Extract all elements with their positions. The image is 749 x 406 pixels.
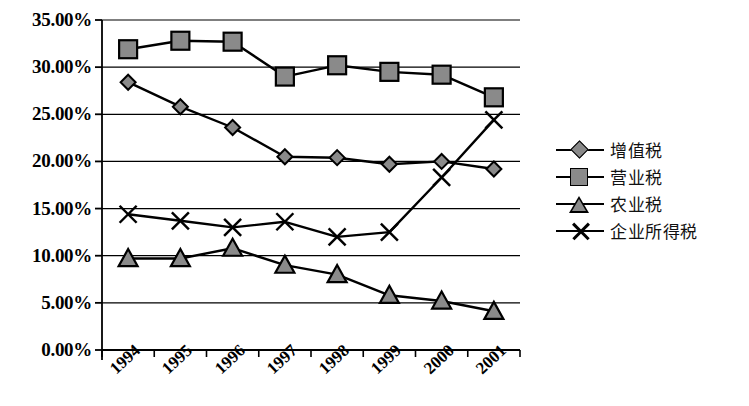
data-point-增值税-1994 xyxy=(121,75,136,90)
y-tick-label-15: 15.00% xyxy=(0,199,92,218)
data-point-营业税-1994 xyxy=(119,40,137,58)
legend-marker-diamond-icon xyxy=(556,139,604,161)
y-tick-label-25: 25.00% xyxy=(0,104,92,123)
chart-figure: 0.00%5.00%10.00%15.00%20.00%25.00%30.00%… xyxy=(0,0,749,406)
x-cross-icon xyxy=(571,222,589,240)
data-point-营业税-1995 xyxy=(171,32,189,50)
y-tick-label-20: 20.00% xyxy=(0,151,92,170)
y-tick-label-35: 35.00% xyxy=(0,10,92,29)
legend-label: 企业所得税 xyxy=(604,218,698,243)
square-icon xyxy=(570,168,588,186)
chart-legend: 增值税营业税农业税企业所得税 xyxy=(556,136,746,244)
data-point-企业所得税-2000 xyxy=(433,169,450,186)
data-point-营业税-1997 xyxy=(276,68,294,86)
legend-item-农业税[interactable]: 农业税 xyxy=(556,190,746,217)
legend-label: 农业税 xyxy=(604,191,663,216)
legend-label: 增值税 xyxy=(604,137,663,162)
data-point-营业税-1996 xyxy=(224,33,242,51)
diamond-icon xyxy=(570,140,588,158)
legend-item-企业所得税[interactable]: 企业所得税 xyxy=(556,217,746,244)
legend-marker-triangle-icon xyxy=(556,193,604,215)
y-tick-label-10: 10.00% xyxy=(0,246,92,265)
data-point-增值税-1995 xyxy=(173,99,188,114)
legend-item-营业税[interactable]: 营业税 xyxy=(556,163,746,190)
legend-marker-x-icon xyxy=(556,220,604,242)
data-point-增值税-1999 xyxy=(382,157,397,172)
y-tick-label-0: 0.00% xyxy=(0,340,92,359)
triangle-icon xyxy=(569,196,589,213)
data-point-营业税-2001 xyxy=(485,88,503,106)
y-tick-label-5: 5.00% xyxy=(0,293,92,312)
legend-marker-square-icon xyxy=(556,166,604,188)
legend-label: 营业税 xyxy=(604,164,663,189)
data-point-营业税-2000 xyxy=(433,66,451,84)
data-point-增值税-2000 xyxy=(434,154,449,169)
data-point-增值税-1996 xyxy=(225,120,240,135)
data-point-农业税-1999 xyxy=(380,286,399,303)
data-point-营业税-1998 xyxy=(328,56,346,74)
y-tick-label-30: 30.00% xyxy=(0,57,92,76)
legend-item-增值税[interactable]: 增值税 xyxy=(556,136,746,163)
data-point-增值税-2001 xyxy=(486,161,501,176)
data-point-农业税-1996 xyxy=(223,239,242,256)
data-point-增值税-1998 xyxy=(330,150,345,165)
data-point-营业税-1999 xyxy=(380,63,398,81)
